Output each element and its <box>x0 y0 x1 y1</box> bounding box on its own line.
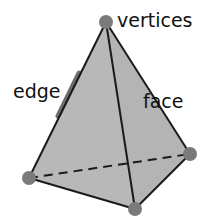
vertex-bottom <box>128 202 142 216</box>
vertex-right <box>183 147 197 161</box>
label-face: face <box>143 90 183 112</box>
vertex-left <box>22 171 36 185</box>
tetrahedron-diagram: vertices edge face <box>0 0 209 222</box>
label-vertices: vertices <box>117 9 193 31</box>
label-edge: edge <box>13 80 61 102</box>
vertex-top <box>99 15 113 29</box>
